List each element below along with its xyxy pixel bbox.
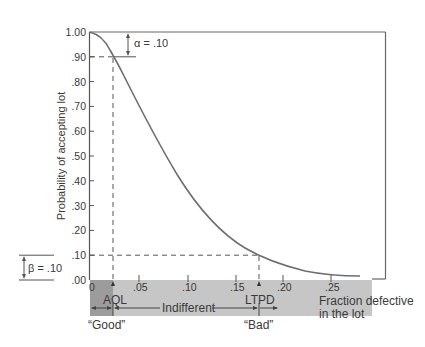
beta-label: β = .10 (28, 262, 62, 274)
svg-text:.70: .70 (71, 100, 86, 112)
svg-text:.80: .80 (71, 76, 86, 88)
svg-text:0: 0 (89, 281, 95, 293)
y-tick-labels: 1.00 .90 .80 .70 .60 .50 .40 .30 .20 .10… (66, 26, 87, 286)
svg-text:.50: .50 (71, 150, 86, 162)
svg-text:.10: .10 (71, 249, 86, 261)
beta-arrow-up-icon (22, 256, 26, 261)
reference-lines (90, 57, 259, 280)
x-axis-label-line2: in the lot (319, 307, 365, 321)
alpha-label: α = .10 (134, 37, 168, 49)
bad-label: “Bad” (244, 318, 273, 332)
svg-text:.20: .20 (71, 224, 86, 236)
x-axis-label-line1: Fraction defective (319, 294, 414, 308)
oc-curve (90, 32, 361, 276)
alpha-arrow-down-icon (126, 51, 130, 56)
svg-text:.25: .25 (325, 281, 340, 293)
oc-chart: 1.00 .90 .80 .70 .60 .50 .40 .30 .20 .10… (0, 0, 425, 347)
y-axis-label: Probability of accepting lot (55, 92, 67, 220)
svg-text:.05: .05 (133, 281, 148, 293)
aql-label: AQL (103, 293, 127, 307)
svg-text:.60: .60 (71, 125, 86, 137)
alpha-arrow-up-icon (126, 33, 130, 38)
svg-text:.30: .30 (71, 200, 86, 212)
indifferent-label: Indifferent (162, 301, 216, 315)
svg-text:1.00: 1.00 (66, 26, 87, 38)
svg-text:.00: .00 (71, 274, 86, 286)
svg-text:.90: .90 (71, 51, 86, 63)
ltpd-label: LTPD (245, 293, 275, 307)
svg-text:.40: .40 (71, 175, 86, 187)
svg-text:.15: .15 (230, 281, 245, 293)
svg-text:.20: .20 (277, 281, 292, 293)
beta-arrow-down-icon (22, 274, 26, 279)
svg-text:.10: .10 (182, 281, 197, 293)
good-label: “Good” (88, 318, 125, 332)
